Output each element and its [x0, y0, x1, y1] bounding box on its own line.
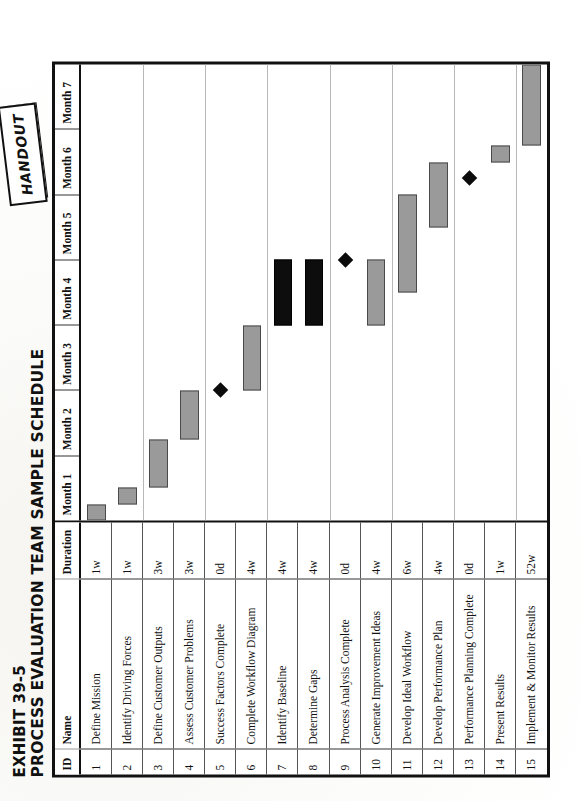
task-duration-cell: 4w	[423, 522, 454, 578]
task-duration-cell: 3w	[174, 522, 205, 578]
page-title-block: EXHIBIT 39-5 PROCESS EVALUATION TEAM SAM…	[12, 348, 47, 777]
timeline-header: Month 1Month 2Month 3Month 4Month 5Month…	[55, 64, 81, 520]
task-name-cell: Implement & Monitor Results	[516, 579, 547, 748]
timeline-gridline	[392, 64, 393, 520]
handout-badge: HANDOUT	[0, 106, 46, 206]
task-id-header: ID	[55, 749, 81, 774]
gantt-bar	[491, 145, 510, 161]
task-name-cell: Define Mission	[81, 579, 112, 748]
task-id-cell: 6	[236, 749, 267, 774]
timeline-gridline	[205, 64, 206, 520]
rotated-page-stage: EXHIBIT 39-5 PROCESS EVALUATION TEAM SAM…	[0, 0, 582, 801]
task-id-cell: 13	[454, 749, 485, 774]
exhibit-label: EXHIBIT 39-5	[12, 348, 29, 777]
task-name-cell: Develop Performance Plan	[423, 579, 454, 748]
task-id-cell: 15	[516, 749, 547, 774]
gantt-bar	[118, 487, 137, 503]
task-name-cell: Identify Baseline	[267, 579, 298, 748]
task-duration-cell: 4w	[236, 522, 267, 578]
gantt-milestone-marker	[213, 382, 229, 398]
task-name-cell: Determine Gaps	[298, 579, 329, 748]
timeline-month-header: Month 7	[55, 64, 79, 128]
task-table: ID123456789101112131415 NameDefine Missi…	[55, 520, 547, 774]
gantt-bar	[305, 259, 324, 324]
task-duration-cell: 4w	[298, 522, 329, 578]
task-name-cell: Identify Driving Forces	[112, 579, 143, 748]
task-name-cell: Complete Workflow Diagram	[236, 579, 267, 748]
column-id: ID123456789101112131415	[55, 748, 547, 774]
timeline-month-header: Month 4	[55, 259, 79, 324]
task-duration-header: Duration	[55, 522, 81, 578]
task-name-cell: Assess Customer Problems	[174, 579, 205, 748]
timeline-month-header: Month 1	[55, 455, 79, 520]
task-id-cell: 5	[205, 749, 236, 774]
gantt-bar	[367, 259, 386, 324]
page-title: PROCESS EVALUATION TEAM SAMPLE SCHEDULE	[29, 348, 47, 777]
task-id-cell: 14	[485, 749, 516, 774]
timeline-panel: Month 1Month 2Month 3Month 4Month 5Month…	[55, 64, 547, 520]
timeline-gridline	[143, 64, 144, 520]
gantt-bar	[274, 259, 293, 324]
gantt-bar	[149, 439, 168, 488]
gantt-milestone-marker	[337, 252, 353, 268]
task-duration-cell: 4w	[267, 522, 298, 578]
timeline-month-header: Month 6	[55, 128, 79, 193]
gantt-bar	[429, 162, 448, 227]
task-name-cell: Performance Planning Complete	[454, 579, 485, 748]
column-duration: Duration1w1w3w3w0d4w4w4w0d4w6w4w0d1w52w	[55, 522, 547, 578]
gantt-milestone-marker	[462, 170, 478, 186]
gantt-bar	[87, 504, 106, 520]
task-id-cell: 12	[423, 749, 454, 774]
task-duration-cell: 1w	[112, 522, 143, 578]
task-duration-cell: 52w	[516, 522, 547, 578]
handout-badge-label: HANDOUT	[10, 112, 36, 196]
gantt-bar	[398, 194, 417, 292]
gantt-bar	[522, 64, 541, 145]
task-duration-cell: 6w	[392, 522, 423, 578]
column-name: NameDefine MissionIdentify Driving Force…	[55, 578, 547, 748]
task-duration-cell: 4w	[361, 522, 392, 578]
task-name-cell: Define Customer Outputs	[143, 579, 174, 748]
timeline-gridline	[330, 64, 331, 520]
task-id-cell: 9	[330, 749, 361, 774]
timeline-month-header: Month 5	[55, 194, 79, 259]
task-id-cell: 1	[81, 749, 112, 774]
task-duration-cell: 0d	[205, 522, 236, 578]
task-id-cell: 4	[174, 749, 205, 774]
task-duration-cell: 3w	[143, 522, 174, 578]
task-duration-cell: 1w	[81, 522, 112, 578]
task-duration-cell: 0d	[330, 522, 361, 578]
task-duration-cell: 1w	[485, 522, 516, 578]
task-name-cell: Develop Ideal Workflow	[392, 579, 423, 748]
timeline-month-header: Month 3	[55, 324, 79, 389]
task-name-cell: Generate Improvement Ideas	[361, 579, 392, 748]
task-id-cell: 11	[392, 749, 423, 774]
task-id-cell: 3	[143, 749, 174, 774]
gantt-bar	[243, 325, 262, 390]
timeline-gridline	[454, 64, 455, 520]
timeline-gridline	[516, 64, 517, 520]
timeline-gridline	[267, 64, 268, 520]
timeline-body	[81, 64, 547, 520]
task-id-cell: 2	[112, 749, 143, 774]
task-name-cell: Present Results	[485, 579, 516, 748]
gantt-bar	[180, 390, 199, 439]
task-name-cell: Process Analysis Complete	[330, 579, 361, 748]
task-id-cell: 7	[267, 749, 298, 774]
handout-badge-box: HANDOUT	[0, 102, 48, 206]
task-name-header: Name	[55, 579, 81, 748]
timeline-month-header: Month 2	[55, 389, 79, 454]
gantt-chart-frame: ID123456789101112131415 NameDefine Missi…	[52, 61, 550, 777]
task-name-cell: Success Factors Complete	[205, 579, 236, 748]
task-id-cell: 10	[361, 749, 392, 774]
task-id-cell: 8	[298, 749, 329, 774]
task-duration-cell: 0d	[454, 522, 485, 578]
